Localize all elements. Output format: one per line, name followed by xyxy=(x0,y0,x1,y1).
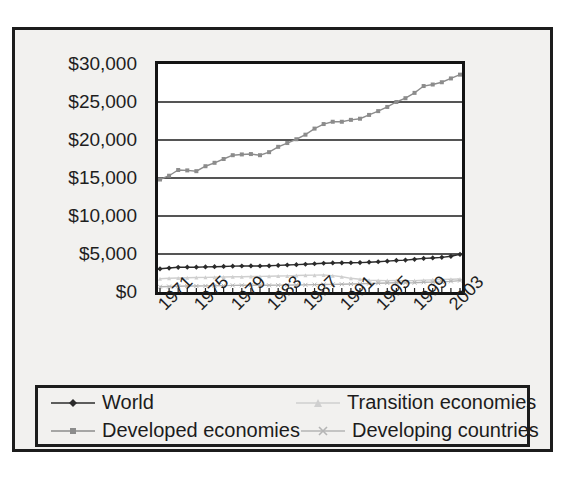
series-developed-economies xyxy=(158,73,462,182)
square-marker-icon xyxy=(340,120,344,124)
y-tick-label: $25,000 xyxy=(68,91,137,113)
square-marker-icon xyxy=(376,109,380,113)
legend-row: Developed economies Developing countries xyxy=(38,415,527,446)
square-marker-icon xyxy=(358,117,362,121)
x-axis-tick-labels: 197119751979198319871991199519992003 xyxy=(155,300,471,370)
legend-item-developed-economies[interactable]: Developed economies xyxy=(38,419,296,442)
diamond-marker-icon xyxy=(303,262,308,267)
plot-svg xyxy=(158,64,462,292)
diamond-marker-icon xyxy=(221,264,226,269)
square-marker-icon xyxy=(440,80,444,84)
diamond-marker-icon xyxy=(403,257,408,262)
square-marker-icon xyxy=(413,91,417,95)
y-tick-label: $0 xyxy=(116,281,137,303)
legend-label: World xyxy=(102,391,154,414)
diamond-marker-icon xyxy=(230,264,235,269)
series-world xyxy=(158,252,462,272)
diamond-marker-icon xyxy=(176,265,181,270)
square-marker-icon xyxy=(322,122,326,126)
diamond-marker-icon xyxy=(457,252,462,257)
diamond-marker-icon xyxy=(439,255,444,260)
legend-item-developing-countries[interactable]: Developing countries xyxy=(296,419,532,442)
diamond-marker-icon xyxy=(339,260,344,265)
legend-label: Developing countries xyxy=(352,419,539,442)
plot-area xyxy=(155,61,465,295)
diamond-marker-icon xyxy=(276,263,281,268)
square-marker-icon xyxy=(167,174,171,178)
chart-page: $0$5,000$10,000$15,000$20,000$25,000$30,… xyxy=(0,0,581,477)
square-marker-icon xyxy=(385,105,389,109)
diamond-marker-icon xyxy=(385,259,390,264)
chart-area: $0$5,000$10,000$15,000$20,000$25,000$30,… xyxy=(15,30,550,370)
diamond-marker-icon xyxy=(312,261,317,266)
diamond-marker-icon xyxy=(357,260,362,265)
y-tick-label: $20,000 xyxy=(68,129,137,151)
square-marker-icon xyxy=(313,127,317,131)
square-marker-icon xyxy=(285,141,289,145)
square-marker-icon xyxy=(185,168,189,172)
diamond-marker-icon xyxy=(166,265,171,270)
square-marker-icon xyxy=(394,100,398,104)
legend-label: Developed economies xyxy=(102,419,300,442)
legend-item-world[interactable]: World xyxy=(38,391,291,414)
square-marker-icon xyxy=(50,423,96,439)
square-marker-icon xyxy=(213,161,217,165)
y-tick-label: $30,000 xyxy=(68,53,137,75)
diamond-marker-icon xyxy=(194,265,199,270)
diamond-marker-icon xyxy=(266,263,271,268)
cross-marker-icon xyxy=(300,423,346,439)
square-marker-icon xyxy=(258,153,262,157)
diamond-marker-icon xyxy=(69,399,77,407)
y-tick-label: $10,000 xyxy=(68,205,137,227)
square-marker-icon xyxy=(158,178,162,182)
chart-legend: World Transition economies Developed eco… xyxy=(35,385,530,447)
square-marker-icon xyxy=(240,152,244,156)
diamond-marker-icon xyxy=(421,256,426,261)
diamond-marker-icon xyxy=(294,262,299,267)
diamond-marker-icon xyxy=(248,263,253,268)
square-marker-icon xyxy=(303,133,307,137)
legend-label: Transition economies xyxy=(347,391,536,414)
square-marker-icon xyxy=(349,118,353,122)
diamond-marker-icon xyxy=(203,264,208,269)
square-marker-icon xyxy=(194,169,198,173)
diamond-marker-icon xyxy=(185,265,190,270)
square-marker-icon xyxy=(203,164,207,168)
triangle-marker-icon xyxy=(295,395,341,411)
square-marker-icon xyxy=(422,84,426,88)
diamond-marker-icon xyxy=(158,266,163,271)
diamond-marker-icon xyxy=(212,264,217,269)
square-marker-icon xyxy=(222,157,226,161)
diamond-marker-icon xyxy=(376,259,381,264)
diamond-marker-icon xyxy=(257,263,262,268)
diamond-marker-icon xyxy=(330,260,335,265)
square-marker-icon xyxy=(331,120,335,124)
square-marker-icon xyxy=(231,153,235,157)
y-tick-label: $5,000 xyxy=(79,243,137,265)
square-marker-icon xyxy=(267,150,271,154)
square-marker-icon xyxy=(70,428,76,434)
square-marker-icon xyxy=(431,83,435,87)
square-marker-icon xyxy=(294,137,298,141)
y-axis-tick-labels: $0$5,000$10,000$15,000$20,000$25,000$30,… xyxy=(15,30,143,370)
diamond-marker-icon xyxy=(285,262,290,267)
square-marker-icon xyxy=(367,113,371,117)
diamond-marker-icon xyxy=(50,395,96,411)
figure-frame: $0$5,000$10,000$15,000$20,000$25,000$30,… xyxy=(12,27,553,452)
square-marker-icon xyxy=(276,145,280,149)
y-tick-label: $15,000 xyxy=(68,167,137,189)
legend-item-transition-economies[interactable]: Transition economies xyxy=(291,391,527,414)
square-marker-icon xyxy=(176,168,180,172)
square-marker-icon xyxy=(403,96,407,100)
diamond-marker-icon xyxy=(412,257,417,262)
legend-row: World Transition economies xyxy=(38,387,527,418)
diamond-marker-icon xyxy=(430,255,435,260)
square-marker-icon xyxy=(249,152,253,156)
series-lines xyxy=(158,73,462,289)
diamond-marker-icon xyxy=(239,263,244,268)
diamond-marker-icon xyxy=(366,260,371,265)
diamond-marker-icon xyxy=(348,260,353,265)
diamond-marker-icon xyxy=(321,261,326,266)
square-marker-icon xyxy=(449,76,453,80)
series-line xyxy=(160,75,460,180)
